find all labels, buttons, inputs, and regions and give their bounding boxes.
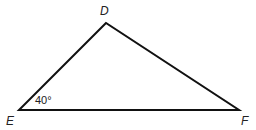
vertex-label-f: F (241, 115, 248, 127)
triangle-def (0, 0, 256, 130)
angle-label-e: 40° (35, 95, 52, 106)
vertex-label-e: E (6, 115, 14, 127)
triangle-shape (19, 23, 239, 110)
vertex-label-d: D (100, 5, 109, 17)
